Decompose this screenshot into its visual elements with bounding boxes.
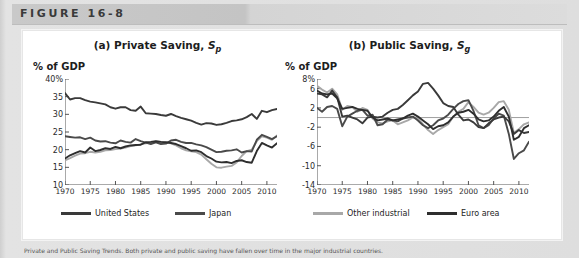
x-tick-label: 1985 xyxy=(131,187,150,196)
y-axis-label-private: % of GDP xyxy=(33,61,85,72)
chart-title-symbol-b: S xyxy=(457,39,465,51)
figure-caption: Private and Public Saving Trends. Both p… xyxy=(24,247,572,257)
x-tick-label: 1990 xyxy=(408,187,427,196)
x-tick-label: 1975 xyxy=(333,187,352,196)
figure-number-label: FIGURE 16-8 xyxy=(20,7,126,20)
x-tick-label: 1995 xyxy=(182,187,201,196)
legend-swatch-icon xyxy=(61,212,91,215)
x-tick-label: 1975 xyxy=(81,187,100,196)
x-tick-label: 2000 xyxy=(459,187,478,196)
y-tick-label: 40% xyxy=(45,75,63,84)
chart-title-text-b: (b) Public Saving, xyxy=(349,39,457,51)
y-tick-label: 25 xyxy=(53,128,63,137)
legend-label: Japan xyxy=(209,209,231,218)
plot-area-public xyxy=(317,79,529,185)
y-tick-label: 20 xyxy=(53,145,63,154)
y-tick-label: 8% xyxy=(302,75,315,84)
legend-other-industrial[interactable]: Other industrial xyxy=(313,209,410,218)
chart-title-text-a: (a) Private Saving, xyxy=(94,39,208,51)
series-line-united-states xyxy=(317,100,529,159)
charts-panel: (a) Private Saving, Sp % of GDP 10152025… xyxy=(22,30,562,240)
x-tick-label: 1980 xyxy=(358,187,377,196)
x-tick-label: 1990 xyxy=(156,187,175,196)
y-tick-label: 15 xyxy=(53,163,63,172)
legend-united-states[interactable]: United States xyxy=(61,209,149,218)
legend-label: Other industrial xyxy=(347,209,410,218)
x-tick-label: 2010 xyxy=(257,187,276,196)
y-tick-label: 6 xyxy=(310,84,315,93)
legend-swatch-icon xyxy=(427,212,457,215)
x-axis-ticks-public: 197019751980198519901995200020052010 xyxy=(317,187,529,201)
y-tick-label: -2 xyxy=(307,123,315,132)
chart-title-subscript-a: p xyxy=(216,45,222,54)
x-tick-label: 1995 xyxy=(434,187,453,196)
x-tick-label: 2005 xyxy=(484,187,503,196)
x-tick-label: 2005 xyxy=(232,187,251,196)
plot-area-private xyxy=(65,79,277,185)
chart-private-saving: (a) Private Saving, Sp % of GDP 10152025… xyxy=(23,31,292,239)
chart-title-symbol-a: S xyxy=(208,39,216,51)
x-tick-label: 1980 xyxy=(106,187,125,196)
y-tick-label: -10 xyxy=(302,161,315,170)
series-line-japan xyxy=(65,93,277,125)
chart-title-subscript-b: g xyxy=(465,45,471,54)
chart-public-saving: (b) Public Saving, Sg % of GDP -14-10-6-… xyxy=(275,31,544,239)
y-axis-ticks-public: -14-10-6-2268% xyxy=(275,79,315,185)
x-tick-label: 2000 xyxy=(207,187,226,196)
legend-public: Other industrialEuro area xyxy=(295,209,535,225)
series-line-other-industrial xyxy=(317,86,529,134)
figure-container: FIGURE 16-8 (a) Private Saving, Sp % of … xyxy=(0,0,579,258)
y-axis-ticks-private: 10152025303540% xyxy=(23,79,63,185)
legend-japan[interactable]: Japan xyxy=(175,209,231,218)
legend-private: United StatesJapan xyxy=(43,209,283,225)
y-tick-label: -6 xyxy=(307,142,315,151)
y-tick-label: 35 xyxy=(53,92,63,101)
x-tick-label: 1970 xyxy=(307,187,326,196)
x-tick-label: 2010 xyxy=(509,187,528,196)
y-tick-label: 30 xyxy=(53,110,63,119)
legend-swatch-icon xyxy=(175,212,205,215)
chart-title-private-saving: (a) Private Saving, Sp xyxy=(23,39,292,54)
x-axis-ticks-private: 197019751980198519901995200020052010 xyxy=(65,187,277,201)
legend-label: United States xyxy=(95,209,149,218)
y-tick-label: 2 xyxy=(310,103,315,112)
plot-svg-public xyxy=(317,79,529,185)
y-axis-label-public: % of GDP xyxy=(285,61,337,72)
x-tick-label: 1970 xyxy=(55,187,74,196)
x-tick-label: 1985 xyxy=(383,187,402,196)
legend-swatch-icon xyxy=(313,212,343,215)
chart-title-public-saving: (b) Public Saving, Sg xyxy=(275,39,544,54)
plot-svg-private xyxy=(65,79,277,185)
legend-label: Euro area xyxy=(461,209,500,218)
legend-euro-area[interactable]: Euro area xyxy=(427,209,500,218)
